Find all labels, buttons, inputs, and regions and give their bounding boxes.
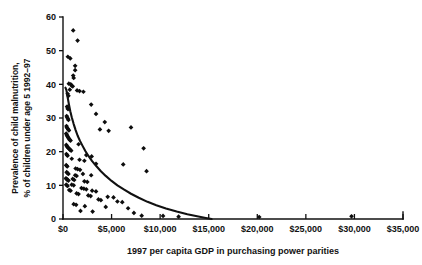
y-tick-label: 60 bbox=[46, 12, 56, 22]
x-tick-label: $10,000 bbox=[144, 224, 177, 234]
data-point bbox=[82, 158, 87, 163]
data-point bbox=[132, 211, 137, 216]
x-tick-label: $0 bbox=[58, 224, 68, 234]
x-tick-label: $20,000 bbox=[241, 224, 274, 234]
data-point bbox=[105, 194, 110, 199]
data-point bbox=[98, 127, 103, 132]
data-point bbox=[102, 120, 107, 125]
data-point bbox=[129, 125, 134, 130]
x-tick-label: $15,000 bbox=[192, 224, 225, 234]
y-tick-label: 50 bbox=[46, 46, 56, 56]
y-axis-ticks: 0102030405060 bbox=[46, 12, 63, 224]
data-point bbox=[81, 89, 86, 94]
data-point bbox=[73, 68, 78, 73]
data-point-series bbox=[64, 28, 354, 219]
data-point bbox=[81, 172, 86, 177]
data-point bbox=[141, 146, 146, 151]
fitted-trend-curve bbox=[65, 88, 211, 219]
data-point bbox=[103, 205, 108, 210]
data-point bbox=[89, 102, 94, 107]
data-point bbox=[71, 28, 76, 33]
data-point bbox=[106, 128, 111, 133]
data-point bbox=[78, 209, 83, 214]
data-point bbox=[75, 38, 80, 43]
data-point bbox=[121, 162, 126, 167]
y-tick-label: 30 bbox=[46, 113, 56, 123]
data-point bbox=[139, 213, 144, 218]
x-axis-title: 1997 per capita GDP in purchasing power … bbox=[127, 246, 339, 256]
data-point bbox=[90, 188, 95, 193]
x-tick-label: $5,000 bbox=[98, 224, 126, 234]
data-point bbox=[89, 173, 94, 178]
scatter-plot-svg: Prevalence of child malnutrition, % of c… bbox=[0, 0, 422, 265]
data-point bbox=[73, 63, 78, 68]
y-tick-label: 10 bbox=[46, 181, 56, 191]
data-point bbox=[83, 204, 88, 209]
x-tick-label: $30,000 bbox=[338, 224, 371, 234]
x-tick-label: $35,000 bbox=[387, 224, 420, 234]
data-point bbox=[94, 189, 99, 194]
y-axis-title-line-2: % of children under age 5 1992–97 bbox=[22, 58, 32, 197]
data-point bbox=[90, 209, 95, 214]
x-axis-ticks: $0$5,000$10,000$15,000$20,000$25,000$30,… bbox=[58, 214, 419, 234]
data-point bbox=[349, 214, 354, 219]
data-point bbox=[126, 206, 131, 211]
data-point bbox=[120, 200, 125, 205]
data-point bbox=[111, 195, 116, 200]
chart-figure: Prevalence of child malnutrition, % of c… bbox=[0, 0, 422, 265]
data-point bbox=[67, 87, 72, 92]
y-axis-title-group: Prevalence of child malnutrition, % of c… bbox=[10, 58, 32, 197]
x-tick-label: $25,000 bbox=[290, 224, 323, 234]
data-point bbox=[69, 156, 74, 161]
data-point bbox=[77, 157, 82, 162]
data-point bbox=[94, 112, 99, 117]
y-tick-label: 0 bbox=[51, 214, 56, 224]
data-point bbox=[161, 214, 166, 219]
y-tick-label: 20 bbox=[46, 147, 56, 157]
data-point bbox=[115, 199, 120, 204]
y-axis-title-line-1: Prevalence of child malnutrition, bbox=[10, 62, 20, 193]
data-point bbox=[144, 169, 149, 174]
y-tick-label: 40 bbox=[46, 80, 56, 90]
data-point bbox=[176, 214, 181, 219]
